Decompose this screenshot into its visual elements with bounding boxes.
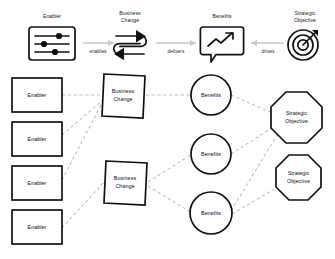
node-enabler-4[interactable]: Enabler — [12, 210, 62, 244]
flow-arrow-enables: enables — [83, 40, 114, 54]
link-business-change-2-benefit-3 — [148, 186, 192, 213]
node-label-line2: Change — [115, 183, 134, 189]
connector-label-enables: enables — [89, 49, 107, 54]
node-label: Benefits — [201, 92, 221, 98]
diagram-canvas: Enabler enables Business Change — [0, 0, 335, 259]
node-label-line2: Change — [113, 96, 132, 102]
node-strategic-objective-1[interactable]: Strategic Objective — [271, 92, 322, 143]
node-label-line1: Business — [114, 175, 137, 181]
node-label-line1: Strategic — [286, 110, 308, 116]
node-benefit-3[interactable]: Benefits — [190, 192, 232, 234]
link-enabler-2-business-change-1 — [62, 100, 103, 135]
benefits-dependency-network-svg: Enabler enables Business Change — [0, 0, 335, 259]
flow-arrow-delivers: delivers — [156, 40, 196, 54]
connector-label-delivers: delivers — [168, 49, 185, 54]
node-label: Enabler — [28, 136, 47, 142]
legend-label-strategic-objective-line2: Objective — [294, 17, 316, 23]
node-label-line1: Strategic — [288, 170, 310, 176]
node-enabler-3[interactable]: Enabler — [12, 166, 62, 200]
node-enabler-2[interactable]: Enabler — [12, 122, 62, 156]
node-label: Enabler — [28, 180, 47, 186]
node-label-line2: Objective — [287, 178, 310, 184]
link-benefit-1-strategic-objective-1 — [231, 95, 277, 115]
node-enabler-1[interactable]: Enabler — [12, 78, 62, 112]
speech-bubble-trend-arrow-icon — [200, 27, 243, 62]
connector-label-drives: drives — [261, 49, 275, 54]
two-way-circular-arrows-icon — [114, 30, 146, 60]
node-label-line1: Business — [112, 88, 135, 94]
link-business-change-2-benefit-2 — [148, 154, 192, 182]
node-business-change-1[interactable]: Business Change — [102, 74, 145, 118]
node-label: Benefits — [201, 210, 221, 216]
node-label: Enabler — [28, 224, 47, 230]
node-benefit-1[interactable]: Benefits — [191, 75, 231, 115]
legend-label-business-change-line2: Change — [121, 17, 140, 23]
legend-label-benefits: Benefits — [212, 13, 232, 19]
network-links — [62, 95, 285, 228]
target-bullseye-dart-icon — [288, 30, 318, 60]
node-benefit-2[interactable]: Benefits — [191, 134, 231, 174]
link-benefit-3-strategic-objective-2 — [232, 184, 283, 214]
legend-label-strategic-objective-line1: Strategic — [295, 10, 316, 16]
flow-arrow-drives: drives — [251, 40, 284, 54]
node-label: Benefits — [201, 151, 221, 157]
sliders-settings-icon — [29, 27, 75, 60]
link-enabler-4-business-change-2 — [62, 182, 104, 228]
node-business-change-2[interactable]: Business Change — [104, 161, 147, 205]
node-label: Enabler — [28, 92, 47, 98]
node-strategic-objective-2[interactable]: Strategic Objective — [276, 155, 321, 200]
legend-label-business-change-line1: Business — [119, 10, 141, 16]
legend-label-enabler: Enabler — [43, 13, 61, 19]
link-enabler-3-business-change-1 — [62, 101, 103, 180]
node-label-line2: Objective — [285, 118, 308, 124]
